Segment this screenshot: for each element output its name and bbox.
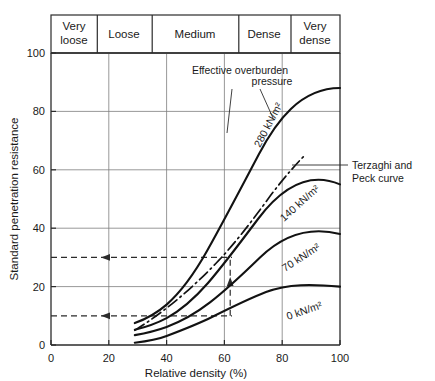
chart-svg: Very loose Loose Medium Dense Very dense [0,0,435,381]
chart-figure: Very loose Loose Medium Dense Very dense [0,0,435,381]
guide-arrow-n-10 [101,312,110,319]
density-band-label-very-loose-line1: Very [62,20,85,32]
y-tick-label-0: 0 [39,339,45,351]
curve-label-70: 70 kN/m² [280,240,323,274]
y-tick-labels: 0 20 40 60 80 100 [27,47,45,351]
annotation-effective-overburden-line2: pressure [252,75,293,87]
x-tick-label-100: 100 [331,352,349,364]
y-axis-title: Standard penetration resistance [8,117,20,280]
x-tick-label-0: 0 [48,352,54,364]
density-band-label-very-dense-line1: Very [303,20,326,32]
density-band-header: Very loose Loose Medium Dense Very dense [51,15,340,53]
annotation-terzaghi-line2: Peck curve [352,172,404,184]
density-band-label-loose: Loose [108,28,139,40]
y-tick-label-20: 20 [33,281,45,293]
density-band-label-medium: Medium [175,28,216,40]
y-tick-label-60: 60 [33,164,45,176]
x-tick-label-20: 20 [103,352,115,364]
annotation-terzaghi-line1: Terzaghi and [352,159,412,171]
density-band-label-very-loose-line2: loose [60,34,88,46]
y-tick-label-40: 40 [33,222,45,234]
x-tick-label-80: 80 [276,352,288,364]
density-band-label-dense: Dense [247,28,280,40]
guide-arrow-n-30 [101,254,110,261]
density-band-label-very-dense-line2: dense [299,34,330,46]
x-tick-label-60: 60 [218,352,230,364]
curve-280-kn-m2 [135,88,340,323]
curve-labels: 280 kN/m² 140 kN/m² 70 kN/m² 0 kN/m² [251,100,324,322]
x-tick-label-40: 40 [160,352,172,364]
x-tick-labels: 0 20 40 60 80 100 [48,352,349,364]
y-tick-label-100: 100 [27,47,45,59]
x-axis-title: Relative density (%) [145,367,247,379]
curve-label-0: 0 kN/m² [285,298,324,321]
y-tick-label-80: 80 [33,105,45,117]
curve-label-140: 140 kN/m² [277,182,321,224]
